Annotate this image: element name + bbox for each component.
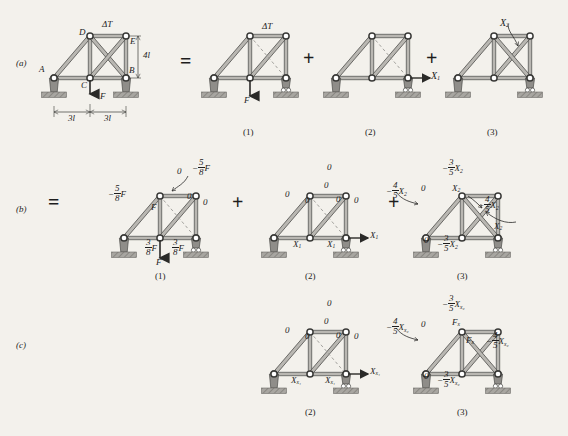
redundant-label-x1-a2: X1 bbox=[431, 71, 440, 82]
operator-equals-row-a: = bbox=[180, 51, 191, 71]
redundant-label-x2-a3: X2 bbox=[500, 18, 509, 29]
row-label-c: (c) bbox=[16, 341, 26, 350]
force-label-b1-rightvertical-zero: 0 bbox=[203, 198, 208, 207]
panel-number-b3: (3) bbox=[457, 272, 468, 281]
span-left-label: 3l bbox=[68, 114, 75, 123]
force-label-c3-top: −35Xx₂ bbox=[442, 294, 465, 313]
force-label-c3-bottom-zero: 0 bbox=[424, 372, 429, 381]
load-label-a1: F bbox=[244, 96, 250, 105]
joint-label-d: D bbox=[79, 28, 86, 37]
force-label-b2-innerdiag-zero: 0 bbox=[324, 181, 329, 190]
force-label-c2-bottomright: Xx₁ bbox=[325, 376, 335, 386]
force-label-b3-diagonal: X2 bbox=[452, 184, 460, 194]
force-label-b3-top: −35X2 bbox=[442, 158, 463, 177]
load-label-a0: F bbox=[100, 92, 106, 101]
force-label-b2-bottomright: X1 bbox=[327, 240, 335, 250]
row-a-panel-2 bbox=[324, 33, 431, 98]
force-label-b1-vertical: F bbox=[151, 203, 157, 212]
delta-t-label-a1: ΔT bbox=[262, 22, 272, 31]
operator-plus-row-a-1: + bbox=[303, 48, 314, 68]
force-label-b2-top-zero: 0 bbox=[327, 163, 332, 172]
span-right-label: 3l bbox=[104, 114, 111, 123]
row-a-panel-original bbox=[42, 33, 142, 117]
force-label-b3-bottom-zero: 0 bbox=[424, 236, 429, 245]
force-label-c3-left: −45Xx₂ bbox=[386, 317, 409, 336]
force-label-c2-innerdiag-zero: 0 bbox=[324, 317, 329, 326]
force-label-c3-diagonal: Fx bbox=[452, 318, 460, 328]
force-label-b1-diagonal-zero: 0 bbox=[187, 192, 192, 201]
force-label-c3-rightdiagonal: Fx bbox=[466, 336, 474, 346]
height-dimension-label: 4l bbox=[143, 51, 150, 60]
operator-plus-row-b-1: + bbox=[232, 192, 243, 212]
delta-t-label-a0: ΔT bbox=[102, 20, 112, 29]
row-a-panel-3 bbox=[446, 24, 543, 98]
row-label-b: (b) bbox=[16, 205, 27, 214]
applied-label-c2: Xx₁ bbox=[370, 367, 380, 377]
force-label-c2-rightdiag-zero: 0 bbox=[336, 331, 341, 340]
panel-number-a3: (3) bbox=[487, 128, 498, 137]
operator-plus-row-a-2: + bbox=[426, 48, 437, 68]
joint-label-a: A bbox=[39, 65, 45, 74]
force-label-b1-topright: −58F bbox=[192, 158, 210, 177]
force-label-c3-left-zero: 0 bbox=[421, 320, 426, 329]
truss-superposition-figure bbox=[0, 0, 568, 436]
row-label-a: (a) bbox=[16, 59, 27, 68]
panel-number-c2: (2) bbox=[305, 408, 316, 417]
force-label-b2-leftdiag-zero: 0 bbox=[285, 190, 290, 199]
force-label-b1-bottomleft: 38F bbox=[145, 238, 157, 257]
panel-number-b1: (1) bbox=[155, 272, 166, 281]
force-label-c2-leftdiag-zero: 0 bbox=[285, 326, 290, 335]
force-label-c3-bottom: −35Xx₂ bbox=[437, 370, 460, 389]
row-a-panel-1 bbox=[202, 33, 299, 98]
force-label-b3-right: −45X2 bbox=[478, 195, 499, 214]
force-label-c3-right: −45Xx₂ bbox=[486, 331, 509, 350]
force-label-b1-left-diagonal: −58F bbox=[108, 184, 126, 203]
panel-number-a1: (1) bbox=[243, 128, 254, 137]
force-label-b3-left-zero: 0 bbox=[421, 184, 426, 193]
joint-label-e: E bbox=[130, 37, 136, 46]
force-label-b2-centervertical-zero: 0 bbox=[305, 196, 310, 205]
row-b-panel-2 bbox=[262, 193, 369, 258]
force-label-b3-left: −45X2 bbox=[386, 181, 407, 200]
panel-number-c3: (3) bbox=[457, 408, 468, 417]
panel-number-a2: (2) bbox=[365, 128, 376, 137]
joint-label-c: C bbox=[81, 81, 87, 90]
force-label-c2-top-zero: 0 bbox=[327, 299, 332, 308]
panel-number-b2: (2) bbox=[305, 272, 316, 281]
load-label-b1: F bbox=[156, 258, 162, 267]
force-label-c2-centervertical-zero: 0 bbox=[305, 332, 310, 341]
force-label-b1-topchord: 0 bbox=[177, 167, 182, 176]
applied-label-b2: X1 bbox=[370, 231, 378, 241]
force-label-b2-rightvertical-zero: 0 bbox=[354, 196, 359, 205]
force-label-c2-rightvertical-zero: 0 bbox=[354, 332, 359, 341]
row-c-panel-2 bbox=[262, 329, 369, 394]
force-label-b3-bottom: −35X2 bbox=[437, 234, 458, 253]
force-label-b2-rightdiag-zero: 0 bbox=[336, 195, 341, 204]
operator-equals-row-b: = bbox=[48, 192, 59, 212]
force-label-b1-bottomright: 38F bbox=[172, 238, 184, 257]
force-label-b2-bottomleft: X1 bbox=[293, 240, 301, 250]
joint-label-b: B bbox=[129, 66, 135, 75]
force-label-b3-rightdiagonal: X2 bbox=[494, 222, 502, 232]
force-label-c2-bottomleft: Xx₁ bbox=[291, 376, 301, 386]
